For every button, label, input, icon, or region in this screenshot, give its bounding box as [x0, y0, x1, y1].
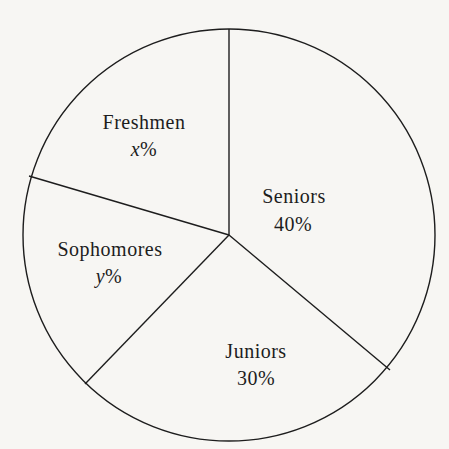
seniors-label: Seniors	[262, 185, 326, 207]
slice-juniors: Juniors 30%	[225, 340, 286, 389]
pie-chart: Freshmen x% Seniors 40% Sophomores y% Ju…	[0, 0, 449, 449]
sophomores-label: Sophomores	[58, 238, 163, 261]
slice-seniors: Seniors 40%	[262, 185, 326, 235]
seniors-value: 40%	[274, 213, 312, 235]
sophomores-value: y%	[94, 265, 123, 288]
slice-sophomores: Sophomores y%	[58, 238, 163, 288]
pie-outline	[23, 29, 435, 441]
freshmen-value: x%	[130, 138, 158, 160]
slice-freshmen: Freshmen x%	[103, 111, 186, 160]
juniors-value: 30%	[237, 367, 275, 389]
freshmen-label: Freshmen	[103, 111, 186, 133]
juniors-label: Juniors	[225, 340, 286, 362]
divider-sophomores-freshmen	[29, 176, 229, 235]
